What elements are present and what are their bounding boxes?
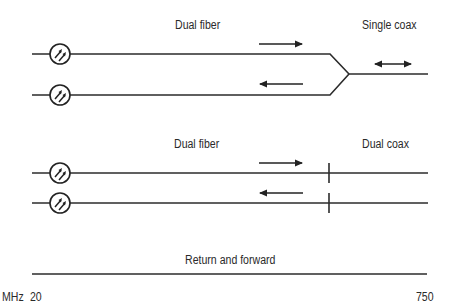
section-top <box>32 44 428 105</box>
optical-transmitter-icon <box>50 193 70 213</box>
label-return-and-forward: Return and forward <box>185 253 275 267</box>
label-dual-fiber-middle: Dual fiber <box>174 137 219 151</box>
label-start-frequency: 20 <box>30 290 42 304</box>
section-middle <box>32 163 428 213</box>
optical-transmitter-icon <box>50 163 70 183</box>
label-end-frequency: 750 <box>416 290 434 304</box>
label-dual-coax: Dual coax <box>362 137 409 151</box>
fiber-line-forward <box>32 54 349 74</box>
optical-transmitter-icon <box>50 85 70 105</box>
optical-transmitter-icon <box>50 44 70 64</box>
label-single-coax: Single coax <box>362 18 417 32</box>
label-dual-fiber-top: Dual fiber <box>175 18 220 32</box>
label-unit: MHz <box>2 290 24 304</box>
